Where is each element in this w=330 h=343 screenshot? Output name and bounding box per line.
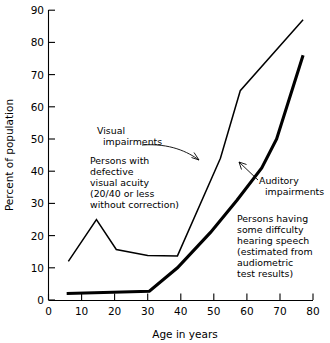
y-tick-label-30: 30 bbox=[31, 197, 44, 209]
y-tick-label-70: 70 bbox=[31, 69, 44, 81]
auditory-impairments-annotation: Auditory impairments bbox=[259, 175, 324, 197]
auditory-desc-line-4: (estimated from bbox=[237, 246, 313, 257]
x-tick-label-50: 50 bbox=[207, 305, 220, 317]
chart-figure: 0 10 20 30 40 50 60 70 80 90 0 10 20 bbox=[0, 0, 330, 343]
visual-label-line-1: Visual bbox=[97, 125, 125, 136]
visual-desc-line-5: without correction) bbox=[90, 199, 179, 210]
y-tick-label-50: 50 bbox=[31, 133, 44, 145]
auditory-desc-line-2: some diffculty bbox=[237, 224, 304, 235]
auditory-impairments-description: Persons having some diffculty hearing sp… bbox=[237, 213, 313, 279]
auditory-desc-line-3: hearing speech bbox=[237, 235, 309, 246]
x-tick-label-10: 10 bbox=[75, 305, 88, 317]
x-tick-label-30: 30 bbox=[141, 305, 154, 317]
y-tick-labels: 0 10 20 30 40 50 60 70 80 90 bbox=[31, 4, 44, 306]
x-tick-label-60: 60 bbox=[240, 305, 253, 317]
x-tick-label-80: 80 bbox=[306, 305, 319, 317]
y-tick-label-60: 60 bbox=[31, 101, 44, 113]
y-tick-label-20: 20 bbox=[31, 230, 44, 242]
visual-desc-line-2: defective bbox=[90, 166, 134, 177]
y-tick-label-10: 10 bbox=[31, 262, 44, 274]
auditory-label-line-2: impairments bbox=[265, 186, 324, 197]
auditory-desc-line-1: Persons having bbox=[237, 213, 308, 224]
visual-label-line-2: impairments bbox=[103, 136, 162, 147]
auditory-impairments-leader bbox=[239, 162, 258, 180]
x-axis-title: Age in years bbox=[152, 328, 217, 340]
x-tick-label-20: 20 bbox=[108, 305, 121, 317]
visual-desc-line-4: (20/40 or less bbox=[90, 188, 154, 199]
visual-desc-line-1: Persons with bbox=[90, 155, 149, 166]
visual-desc-line-3: visual acuity bbox=[90, 177, 149, 188]
x-tick-labels: 0 10 20 30 40 50 60 70 80 bbox=[45, 305, 320, 317]
y-tick-label-40: 40 bbox=[31, 165, 44, 177]
visual-impairments-leader bbox=[142, 145, 199, 160]
y-tick-label-80: 80 bbox=[31, 36, 44, 48]
auditory-label-line-1: Auditory bbox=[259, 175, 299, 186]
auditory-desc-line-5: audiometric bbox=[237, 257, 293, 268]
x-tick-label-70: 70 bbox=[273, 305, 286, 317]
auditory-desc-line-6: test results) bbox=[237, 268, 293, 279]
y-tick-marks bbox=[49, 10, 56, 300]
y-tick-label-90: 90 bbox=[31, 4, 44, 16]
x-tick-label-0: 0 bbox=[45, 305, 52, 317]
y-tick-label-0: 0 bbox=[37, 294, 44, 306]
x-tick-label-40: 40 bbox=[174, 305, 187, 317]
visual-impairments-description: Persons with defective visual acuity (20… bbox=[90, 155, 179, 210]
y-axis-title: Percent of population bbox=[3, 99, 15, 211]
visual-impairments-annotation: Visual impairments bbox=[97, 125, 162, 147]
chart-canvas: 0 10 20 30 40 50 60 70 80 90 0 10 20 bbox=[0, 0, 330, 343]
